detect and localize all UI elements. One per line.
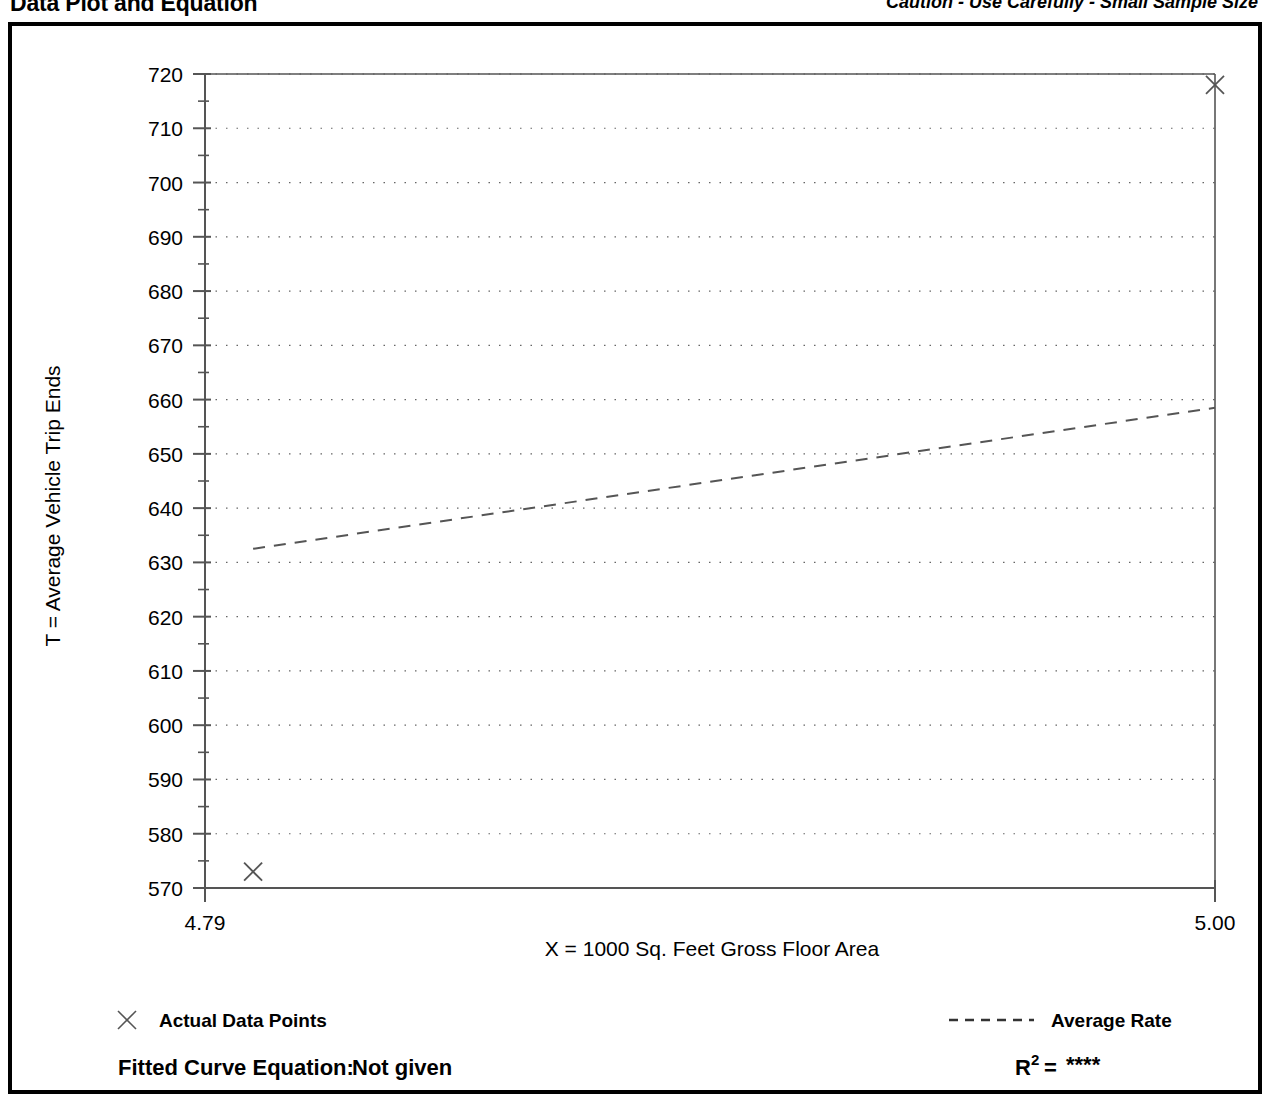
fitted-curve-equation-value: Not given <box>352 1055 452 1080</box>
y-axis-tick-label: 720 <box>148 63 183 86</box>
r-squared-base: R <box>1015 1055 1031 1080</box>
average-rate-line <box>253 408 1215 549</box>
trip-generation-chart: 5705805906006106206306406506606706806907… <box>12 26 1258 1090</box>
caution-note: Caution - Use Carefully - Small Sample S… <box>886 0 1258 13</box>
page-title: Data Plot and Equation <box>10 0 257 17</box>
y-axis-tick-label: 640 <box>148 497 183 520</box>
y-axis-tick-label: 690 <box>148 226 183 249</box>
legend-average-rate: Average Rate <box>949 1010 1172 1031</box>
y-axis-tick-label: 580 <box>148 823 183 846</box>
y-axis-tick-label: 660 <box>148 389 183 412</box>
y-axis-tick-label: 620 <box>148 606 183 629</box>
chart-area: 5705805906006106206306406506606706806907… <box>12 26 1258 1090</box>
r-squared: R 2 = **** <box>1015 1051 1101 1080</box>
grid-lines <box>205 74 1215 834</box>
axes <box>205 74 1215 888</box>
x-marker-icon <box>118 1011 136 1029</box>
y-axis-tick-label: 700 <box>148 172 183 195</box>
fitted-curve-equation: Fitted Curve Equation: Not given <box>118 1055 452 1080</box>
plot-frame: 5705805906006106206306406506606706806907… <box>8 22 1262 1094</box>
y-axis-tick-label: 610 <box>148 660 183 683</box>
page-header: Data Plot and Equation Caution - Use Car… <box>0 0 1272 16</box>
legend-average-rate-label: Average Rate <box>1051 1010 1172 1031</box>
y-axis-tick-label: 670 <box>148 334 183 357</box>
y-axis-tick-label: 570 <box>148 877 183 900</box>
x-axis-tick-label: 4.79 <box>185 911 226 934</box>
y-axis-tick-label: 630 <box>148 551 183 574</box>
legend-actual-data-points-label: Actual Data Points <box>159 1010 327 1031</box>
y-axis-tick-label: 710 <box>148 117 183 140</box>
x-axis-title: X = 1000 Sq. Feet Gross Floor Area <box>545 937 880 960</box>
r-squared-value: **** <box>1066 1052 1101 1077</box>
r-squared-equals: = <box>1044 1055 1057 1080</box>
y-axis-title: T = Average Vehicle Trip Ends <box>41 365 64 646</box>
legend-actual-data-points: Actual Data Points <box>118 1010 327 1031</box>
y-axis-tick-label: 600 <box>148 714 183 737</box>
fitted-curve-equation-label: Fitted Curve Equation: <box>118 1055 354 1080</box>
y-axis-tick-label: 650 <box>148 443 183 466</box>
r-squared-exponent: 2 <box>1031 1051 1039 1068</box>
y-axis-ticks: 5705805906006106206306406506606706806907… <box>148 63 211 900</box>
x-axis-tick-label: 5.00 <box>1195 911 1236 934</box>
average-rate-trend-line <box>253 408 1215 549</box>
data-point-x-marker <box>244 863 262 881</box>
y-axis-tick-label: 680 <box>148 280 183 303</box>
y-axis-tick-label: 590 <box>148 768 183 791</box>
